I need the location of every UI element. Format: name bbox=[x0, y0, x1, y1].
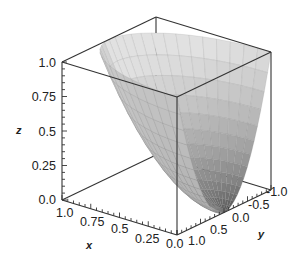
y-tick-label: 0.5 bbox=[210, 223, 227, 237]
y-tick-label: 0.0 bbox=[232, 211, 249, 225]
y-tick-label: -1.0 bbox=[266, 185, 288, 199]
z-axis-label: z bbox=[15, 124, 22, 136]
y-axis-label: y bbox=[257, 228, 265, 240]
z-tick-label: 0.75 bbox=[32, 90, 56, 104]
y-tick-label: -0.5 bbox=[248, 198, 270, 212]
paraboloid-surface bbox=[100, 33, 271, 214]
surface-plot: 1.0 0.75 0.5 0.25 0.0 z 1.0 0.75 0.5 0.2… bbox=[0, 0, 306, 262]
x-tick-label: 0.75 bbox=[80, 215, 104, 229]
x-tick-label: 1.0 bbox=[56, 206, 73, 220]
z-tick-label: 0.5 bbox=[39, 125, 56, 139]
z-tick-label: 0.25 bbox=[32, 159, 56, 173]
x-tick-label: 0.0 bbox=[166, 237, 183, 251]
y-tick-label: 1.0 bbox=[188, 234, 205, 248]
x-tick-label: 0.25 bbox=[135, 232, 159, 246]
z-tick-label: 0.0 bbox=[39, 193, 56, 207]
x-axis-label: x bbox=[85, 239, 93, 251]
x-tick-label: 0.5 bbox=[111, 222, 128, 236]
z-tick-label: 1.0 bbox=[39, 56, 56, 70]
